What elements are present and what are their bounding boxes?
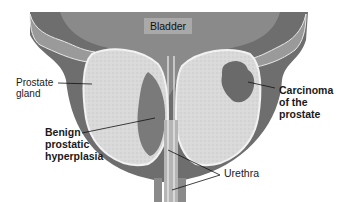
label-urethra: Urethra: [224, 168, 259, 179]
label-bladder: Bladder: [144, 18, 192, 34]
label-carcinoma: Carcinoma of the prostate: [279, 84, 333, 120]
label-prostate-gland: Prostate gland: [16, 77, 53, 99]
label-bph: Benign prostatic hyperplasia: [45, 126, 103, 162]
urethra: [164, 120, 178, 202]
